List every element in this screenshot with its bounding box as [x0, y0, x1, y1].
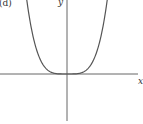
y-axis-label: y	[58, 0, 63, 7]
x-axis-label: x	[138, 77, 143, 86]
panel-label: (d)	[0, 0, 12, 8]
function-plot	[0, 0, 143, 124]
